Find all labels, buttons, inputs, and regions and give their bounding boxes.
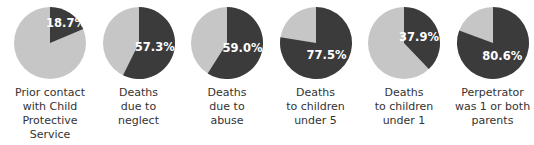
percentage-label: 37.9% [399,30,439,44]
pie-chart-1: 18.7%Prior contactwith ChildProtectiveSe… [6,5,94,142]
pie-chart-5: 37.9%Deathsto childrenunder 1 [360,5,448,128]
caption-line: Protective [6,114,94,128]
caption-line: to children [272,100,360,114]
pie-chart-2: 57.3%Deathsdue toneglect [95,5,183,128]
caption-line: Deaths [272,86,360,100]
pie-caption: Deathsto childrenunder 1 [360,86,448,128]
caption-line: was 1 or both [449,100,534,114]
pie-graphic: 59.0% [189,5,265,81]
percentage-label: 80.6% [482,49,522,63]
caption-line: under 5 [272,114,360,128]
pie-graphic: 80.6% [455,5,531,81]
pie-chart-3: 59.0%Deathsdue toabuse [183,5,271,128]
percentage-label: 57.3% [134,40,174,54]
pie-caption: Deathsto childrenunder 5 [272,86,360,128]
caption-line: Deaths [95,86,183,100]
pie-graphic: 57.3% [101,5,177,81]
caption-line: Service [6,128,94,142]
pie-caption: Prior contactwith ChildProtectiveService [6,86,94,142]
pie-caption: Deathsdue toabuse [183,86,271,128]
caption-line: Prior contact [6,86,94,100]
caption-line: Deaths [183,86,271,100]
pie-graphic: 77.5% [278,5,354,81]
caption-line: neglect [95,114,183,128]
caption-line: to children [360,100,448,114]
pie-caption: Perpetratorwas 1 or bothparents [449,86,534,128]
percentage-label: 59.0% [223,41,263,55]
percentage-label: 18.7% [46,16,86,30]
caption-line: under 1 [360,114,448,128]
caption-line: with Child [6,100,94,114]
pie-graphic: 18.7% [12,5,88,81]
caption-line: parents [449,114,534,128]
pie-chart-4: 77.5%Deathsto childrenunder 5 [272,5,360,128]
pie-caption: Deathsdue toneglect [95,86,183,128]
pie-graphic: 37.9% [366,5,442,81]
caption-line: abuse [183,114,271,128]
caption-line: Deaths [360,86,448,100]
caption-line: due to [95,100,183,114]
pie-chart-6: 80.6%Perpetratorwas 1 or bothparents [449,5,534,128]
percentage-label: 77.5% [306,48,346,62]
caption-line: Perpetrator [449,86,534,100]
caption-line: due to [183,100,271,114]
